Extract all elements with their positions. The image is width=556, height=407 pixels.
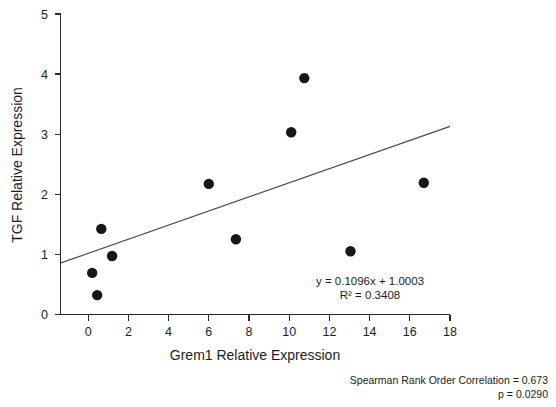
x-tick-label-12: 12 [322,325,336,339]
p-value-label: p = 0.0290 [498,388,548,400]
spearman-correlation-label: Spearman Rank Order Correlation = 0.673 [350,374,548,386]
x-tick-label-8: 8 [246,325,253,339]
data-point [286,127,296,137]
data-point [204,179,214,189]
regression-equation-label: y = 0.1096x + 1.0003 [316,275,424,287]
y-tick-label-3: 3 [41,128,48,142]
y-tick-label-1: 1 [41,248,48,262]
y-axis-ticks [55,14,61,315]
trendline [61,126,450,263]
x-tick-label-18: 18 [443,325,457,339]
x-tick-label-0: 0 [85,325,92,339]
data-point-series [87,73,429,300]
y-tick-label-5: 5 [41,8,48,22]
data-point [87,268,97,278]
data-point [96,224,106,234]
y-tick-label-0: 0 [41,308,48,322]
data-point [345,246,355,256]
plot-canvas: 0 1 2 3 4 5 0 2 4 6 8 10 12 14 16 18 G [0,0,556,407]
data-point [231,234,241,244]
x-tick-label-4: 4 [165,325,172,339]
x-tick-label-6: 6 [205,325,212,339]
x-tick-label-2: 2 [125,325,132,339]
x-axis-ticks [88,315,450,321]
x-tick-label-10: 10 [282,325,296,339]
x-tick-label-16: 16 [403,325,417,339]
y-tick-label-2: 2 [41,188,48,202]
data-point [92,290,102,300]
r-squared-label: R² = 0.3408 [340,289,400,301]
y-axis-title: TGF Relative Expression [9,87,25,243]
data-point [299,73,309,83]
x-axis-title: Grem1 Relative Expression [170,347,340,363]
data-point [107,251,117,261]
data-point [419,178,429,188]
y-tick-label-4: 4 [41,68,48,82]
scatter-plot-figure: 0 1 2 3 4 5 0 2 4 6 8 10 12 14 16 18 G [0,0,556,407]
x-tick-label-14: 14 [363,325,377,339]
